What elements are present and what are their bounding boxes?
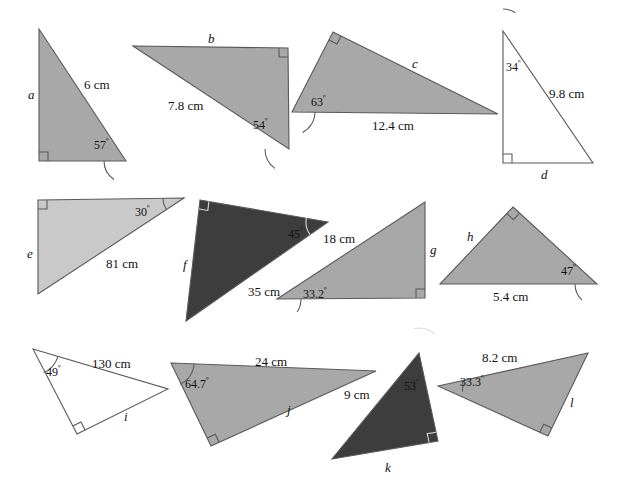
triangle-h-angle-label: 47º xyxy=(561,265,575,277)
angle-arc-c xyxy=(302,112,315,132)
triangle-g-side-length-label: 18 cm xyxy=(323,232,355,245)
degree-symbol: º xyxy=(265,117,267,126)
angle-value: 63 xyxy=(311,95,323,109)
angle-arc-a xyxy=(104,161,114,179)
triangle-e xyxy=(38,198,184,294)
angle-value: 33.3 xyxy=(460,375,481,389)
triangles-figure-group xyxy=(0,0,618,491)
triangle-j-shape xyxy=(171,363,376,446)
triangle-e-shape xyxy=(38,198,184,294)
triangle-d-side-length-label: 9.8 cm xyxy=(549,87,584,100)
degree-symbol: º xyxy=(58,364,60,373)
angle-value: 33.2 xyxy=(303,287,324,301)
degree-symbol: º xyxy=(324,286,326,295)
degree-symbol: º xyxy=(323,94,325,103)
triangle-a xyxy=(39,29,126,179)
angle-value: 30 xyxy=(135,205,147,219)
angle-arc-h xyxy=(575,284,582,300)
triangle-b-angle-label: 54º xyxy=(253,119,267,131)
worksheet-page: a6 cm57ºb7.8 cm54ºc12.4 cm63ºd9.8 cm34ºe… xyxy=(0,0,618,491)
triangle-l-angle-label: 33.3º xyxy=(460,376,483,388)
triangle-g-name-label: g xyxy=(430,243,437,256)
triangle-h-name-label: h xyxy=(467,230,474,243)
angle-value: 53 xyxy=(404,379,416,393)
triangle-j-angle-label: 64.7º xyxy=(185,378,208,390)
angle-arc-b xyxy=(265,149,275,168)
triangle-a-shape xyxy=(39,29,126,161)
triangle-d-angle-label: 34º xyxy=(506,61,520,73)
triangle-k-name-label: k xyxy=(385,461,391,474)
triangle-l-name-label: l xyxy=(570,396,574,409)
triangle-k-shape xyxy=(332,353,438,459)
angle-arc-k xyxy=(414,328,435,334)
triangle-b-shape xyxy=(133,46,289,149)
triangle-b xyxy=(133,46,289,168)
degree-symbol: º xyxy=(416,378,418,387)
triangle-c-name-label: c xyxy=(412,57,418,70)
triangle-l-side-length-label: 8.2 cm xyxy=(482,351,517,364)
triangle-f-angle-label: 45º xyxy=(288,228,302,240)
triangle-f-shape xyxy=(186,200,328,321)
triangle-f xyxy=(186,200,328,321)
triangle-j xyxy=(171,363,376,446)
triangle-i-name-label: i xyxy=(124,410,128,423)
triangle-e-side-length-label: 81 cm xyxy=(106,257,138,270)
triangle-c-side-length-label: 12.4 cm xyxy=(372,119,414,132)
angle-value: 45 xyxy=(288,227,300,241)
triangle-f-side-length-label: 35 cm xyxy=(248,285,280,298)
triangle-l-shape xyxy=(438,353,588,436)
triangle-a-side-length-label: 6 cm xyxy=(84,78,110,91)
triangle-i-angle-label: 49º xyxy=(46,366,60,378)
angle-value: 57 xyxy=(94,138,106,152)
triangle-e-angle-label: 30º xyxy=(135,206,149,218)
angle-arc-d xyxy=(503,9,515,13)
degree-symbol: º xyxy=(106,137,108,146)
triangle-g-angle-label: 33.2º xyxy=(303,288,326,300)
triangle-b-name-label: b xyxy=(208,32,215,45)
triangle-h xyxy=(440,207,597,300)
triangle-a-name-label: a xyxy=(28,88,35,101)
degree-symbol: º xyxy=(573,263,575,272)
angle-value: 47 xyxy=(561,264,573,278)
angle-value: 64.7 xyxy=(185,377,206,391)
triangle-h-side-length-label: 5.4 cm xyxy=(493,290,528,303)
triangle-k-angle-label: 53º xyxy=(404,380,418,392)
triangle-l xyxy=(438,353,588,436)
angle-value: 34 xyxy=(506,60,518,74)
triangle-b-side-length-label: 7.8 cm xyxy=(168,99,203,112)
triangle-i-side-length-label: 130 cm xyxy=(92,357,131,370)
triangle-k-side-length-label: 9 cm xyxy=(344,388,370,401)
triangle-f-name-label: f xyxy=(183,258,187,271)
triangle-j-name-label: j xyxy=(287,403,291,416)
triangle-d-name-label: d xyxy=(541,168,548,181)
degree-symbol: º xyxy=(206,376,208,385)
degree-symbol: º xyxy=(300,226,302,235)
triangle-a-angle-label: 57º xyxy=(94,139,108,151)
triangle-j-side-length-label: 24 cm xyxy=(255,355,287,368)
degree-symbol: º xyxy=(518,59,520,68)
angle-value: 49 xyxy=(46,365,58,379)
degree-symbol: º xyxy=(147,204,149,213)
degree-symbol: º xyxy=(481,374,483,383)
triangle-e-name-label: e xyxy=(27,247,33,260)
angle-value: 54 xyxy=(253,118,265,132)
triangle-c-angle-label: 63º xyxy=(311,96,325,108)
angle-arc-g xyxy=(297,299,301,312)
